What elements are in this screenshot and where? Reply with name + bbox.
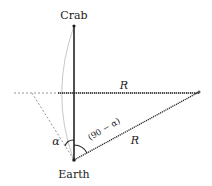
radius-line-bottom — [74, 92, 199, 160]
arc-path — [62, 26, 74, 158]
earth-point — [72, 158, 76, 162]
earth-label: Earth — [58, 168, 89, 181]
alpha-label: α — [52, 135, 60, 148]
left-dashed-line — [32, 93, 74, 160]
crab-point — [72, 24, 75, 27]
crab-label: Crab — [60, 9, 87, 22]
radius-label-bottom: R — [130, 134, 139, 147]
crab-earth-geometry-diagram: Crab Earth R R α (90 − α) — [0, 0, 212, 186]
radius-label-top: R — [119, 79, 128, 92]
complement-angle-label: (90 − α) — [86, 116, 122, 143]
alpha-angle-arc — [65, 140, 74, 146]
right-point — [198, 91, 201, 94]
complement-angle-arc — [74, 145, 87, 153]
